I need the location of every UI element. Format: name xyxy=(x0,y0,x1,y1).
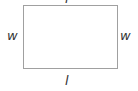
width-label-right: w xyxy=(120,29,131,42)
length-label-bottom: l xyxy=(65,74,69,87)
length-label-top: l xyxy=(65,0,69,5)
rectangle xyxy=(23,5,118,69)
width-label-left: w xyxy=(7,29,18,42)
